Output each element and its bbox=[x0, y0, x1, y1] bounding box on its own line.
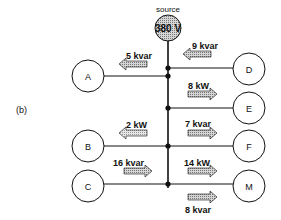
load-E: E bbox=[233, 92, 265, 124]
junction-dot bbox=[165, 181, 170, 186]
load-M: M bbox=[233, 170, 265, 202]
load-B: B bbox=[72, 130, 104, 162]
svg-text:F: F bbox=[246, 142, 252, 152]
svg-text:D: D bbox=[246, 65, 253, 75]
load-A: A bbox=[72, 60, 104, 92]
flow-label-C: 16 kvar bbox=[113, 158, 145, 168]
flow-label-F: 7 kvar bbox=[185, 119, 212, 129]
flow-label-M-bottom: 8 kvar bbox=[185, 205, 212, 215]
load-D: D bbox=[233, 53, 265, 85]
flow-label-E: 8 kW bbox=[188, 81, 210, 91]
flow-label-B: 2 kW bbox=[126, 120, 148, 130]
junction-dot bbox=[165, 105, 170, 110]
flow-label-D: 9 kvar bbox=[192, 41, 219, 51]
source-label: source bbox=[156, 5, 181, 14]
svg-text:B: B bbox=[85, 142, 91, 152]
svg-text:M: M bbox=[245, 182, 253, 192]
flow-label-M-top: 14 kW bbox=[184, 158, 211, 168]
source-node: 380 V bbox=[154, 15, 182, 41]
svg-text:C: C bbox=[85, 182, 92, 192]
load-F: F bbox=[233, 130, 265, 162]
source-voltage: 380 V bbox=[155, 23, 181, 34]
flow-label-A: 5 kvar bbox=[126, 51, 153, 61]
load-C: C bbox=[72, 170, 104, 202]
junction-dot bbox=[165, 73, 170, 78]
svg-text:E: E bbox=[246, 104, 252, 114]
svg-text:A: A bbox=[85, 72, 91, 82]
junction-dot bbox=[165, 65, 170, 70]
figure-label: (b) bbox=[16, 105, 27, 115]
junction-dot bbox=[165, 143, 170, 148]
arrow-right-icon bbox=[188, 191, 217, 203]
power-flow-diagram: (b) source 380 V A B C D E F bbox=[0, 0, 281, 220]
